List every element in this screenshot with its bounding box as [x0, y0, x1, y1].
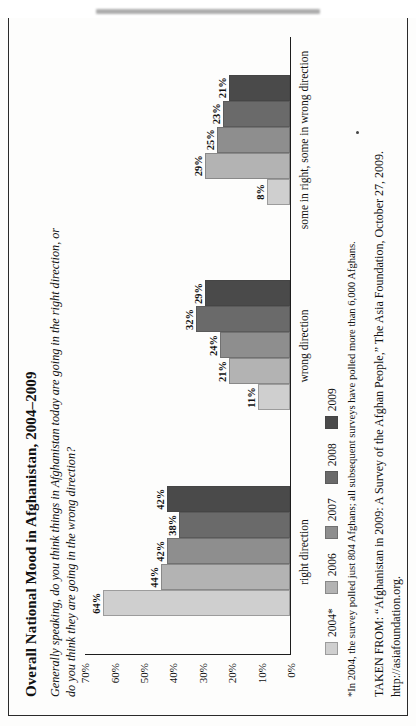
legend-swatch — [325, 642, 338, 655]
legend-swatch — [325, 526, 338, 539]
bar-value-label: 25% — [205, 129, 216, 150]
bar: 64% — [103, 590, 290, 616]
y-axis-tick: 70% — [79, 663, 91, 683]
legend-label: 2009 — [326, 388, 338, 411]
y-axis-labels: 0%10%20%30%40%50%60%70% — [85, 659, 291, 697]
legend-label: 2008 — [326, 443, 338, 466]
scan-speck — [356, 131, 359, 134]
bar: 38% — [179, 512, 290, 538]
bar-value-label: 32% — [184, 309, 195, 330]
bar-group: 11%21%24%32%29% — [85, 243, 290, 449]
legend-label: 2006 — [326, 553, 338, 576]
bar-value-label: 23% — [211, 103, 222, 124]
bar-value-label: 44% — [149, 567, 160, 588]
y-axis-tick: 40% — [167, 663, 179, 683]
bar-value-label: 29% — [193, 283, 204, 304]
bar: 21% — [229, 75, 291, 101]
bar-value-label: 38% — [167, 515, 178, 536]
x-axis-category: right direction — [293, 449, 317, 655]
chart-subtitle: Generally speaking, do you think things … — [47, 227, 79, 697]
x-axis-category-labels: right directionwrong directionsome in ri… — [293, 37, 317, 655]
legend-item: 2008 — [325, 443, 338, 484]
y-axis-tick: 60% — [109, 663, 121, 683]
bar-value-label: 21% — [217, 361, 228, 382]
bar-value-label: 8% — [255, 184, 266, 200]
y-axis-tick: 0% — [285, 663, 297, 678]
y-axis-tick: 10% — [256, 663, 268, 683]
bar: 42% — [167, 486, 290, 512]
bar-value-label: 64% — [91, 593, 102, 614]
bar: 21% — [229, 359, 291, 385]
y-axis-tick: 20% — [226, 663, 238, 683]
bar: 29% — [205, 153, 290, 179]
bar: 29% — [205, 281, 290, 307]
source-line-1: TAKEN FROM: “Afghanistan in 2009: A Surv… — [372, 151, 386, 697]
bar-value-label: 42% — [155, 541, 166, 562]
bar-value-label: 11% — [246, 387, 257, 407]
source-line-2: http://asiafoundation.org. — [388, 27, 405, 697]
bar-value-label: 29% — [193, 155, 204, 176]
legend-item: 2006 — [325, 553, 338, 594]
legend-swatch — [325, 471, 338, 484]
bar-value-label: 24% — [208, 335, 219, 356]
plot-area: 64%44%42%38%42%11%21%24%32%29%8%29%25%23… — [85, 37, 291, 655]
bar: 44% — [161, 564, 290, 590]
y-axis-tick: 50% — [138, 663, 150, 683]
x-axis-category: wrong direction — [293, 243, 317, 449]
figure-box: Overall National Mood in Afghanistan, 20… — [8, 10, 408, 716]
bar: 25% — [217, 127, 290, 153]
legend-label: 2004* — [326, 608, 338, 637]
scanned-page-stage: Overall National Mood in Afghanistan, 20… — [0, 0, 416, 726]
chart-legend: 2004*2006200720082009 — [325, 27, 338, 655]
legend-swatch — [325, 416, 338, 429]
x-axis-category: some in right, some in wrong direction — [293, 37, 317, 243]
legend-label: 2007 — [326, 498, 338, 521]
bar-chart: 0%10%20%30%40%50%60%70% 64%44%42%38%42%1… — [85, 37, 317, 697]
bar-group: 8%29%25%23%21% — [85, 37, 290, 243]
bar: 11% — [258, 385, 290, 411]
bar: 23% — [223, 101, 290, 127]
legend-item: 2004* — [325, 608, 338, 655]
bar: 32% — [196, 307, 290, 333]
bar-value-label: 42% — [155, 489, 166, 510]
bar: 42% — [167, 538, 290, 564]
legend-swatch — [325, 581, 338, 594]
legend-item: 2007 — [325, 498, 338, 539]
bar: 24% — [220, 333, 290, 359]
bar-group: 64%44%42%38%42% — [85, 448, 290, 654]
y-axis-tick: 30% — [197, 663, 209, 683]
page-title: Overall National Mood in Afghanistan, 20… — [23, 27, 40, 697]
source-citation: TAKEN FROM: “Afghanistan in 2009: A Surv… — [371, 27, 404, 697]
footnote: *In 2004, the survey polled just 804 Afg… — [345, 27, 359, 697]
bar-groups: 64%44%42%38%42%11%21%24%32%29%8%29%25%23… — [85, 37, 290, 654]
bar-value-label: 21% — [217, 77, 228, 98]
bar: 8% — [267, 179, 290, 205]
legend-item: 2009 — [325, 388, 338, 429]
